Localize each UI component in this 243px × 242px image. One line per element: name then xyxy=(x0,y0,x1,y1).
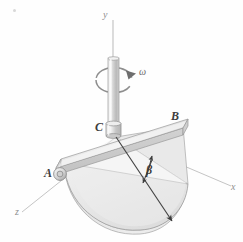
hub-collar-c xyxy=(106,121,121,138)
point-a-label: A xyxy=(44,167,52,179)
beta-angle-label: β xyxy=(146,164,152,176)
point-c-label: C xyxy=(95,121,103,133)
point-b-label: B xyxy=(171,110,179,122)
mechanics-figure: y x z ω C B A β xyxy=(0,0,243,242)
z-axis-label: z xyxy=(15,207,19,217)
y-axis-label: y xyxy=(103,10,107,20)
x-axis-label: x xyxy=(231,182,235,192)
shaft-top-cap xyxy=(108,57,119,61)
omega-label: ω xyxy=(139,67,146,77)
vertical-shaft xyxy=(108,57,119,126)
bearing-pin-a xyxy=(54,168,67,181)
figure-canvas xyxy=(0,0,243,242)
